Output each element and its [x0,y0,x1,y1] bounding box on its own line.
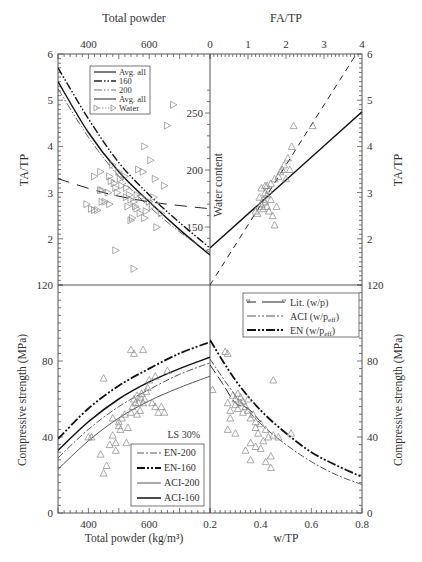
figure: 4006000123423456234561502002500040408080… [0,0,422,562]
legend-aci-200: ACI-200 [164,477,200,488]
data-marker [97,451,104,458]
tick-label: 80 [367,355,379,367]
tick-label: 600 [141,518,158,530]
data-marker [148,157,155,164]
data-marker [100,470,107,477]
bottom-right-xlabel: w/TP [274,532,299,544]
data-marker [140,346,147,353]
tick-label: 2 [283,38,289,50]
data-marker [154,224,161,231]
legend-bottom-left: EN-200 EN-160 ACI-200 ACI-160 [131,444,204,506]
tick-label: 6 [48,48,54,60]
data-marker [131,350,138,357]
series-line [210,340,362,477]
legend-en-160: EN-160 [164,462,196,473]
top-right-series [210,54,362,285]
data-marker [164,122,171,129]
tick-label: 2 [367,233,373,245]
tick-label: 0.2 [203,518,217,530]
data-marker [142,143,149,150]
legend-water: Water [119,103,139,113]
tick-label: 0 [207,38,213,50]
data-marker [284,154,291,161]
data-marker [288,143,295,150]
data-marker [105,189,112,196]
data-marker [136,166,143,173]
tick-label: 4 [48,140,54,152]
top-right-points [252,122,316,228]
data-marker [109,432,116,439]
data-marker [152,175,159,182]
data-marker [103,462,110,469]
data-marker [260,205,267,212]
plot-frames [58,54,362,513]
data-marker [247,439,254,446]
tick-label: 80 [42,355,54,367]
tick-label: 0.6 [304,518,318,530]
tick-label: 0.8 [355,518,369,530]
data-points [84,101,316,476]
tick-label: 200 [187,164,204,176]
data-marker [267,196,274,203]
tick-label: 3 [367,187,373,199]
tick-label: 40 [367,431,379,443]
legend-lit: Lit. (w/p) [290,297,328,309]
top-right-xlabel: FA/TP [270,11,302,25]
left-ylabel-top: TA/TP [17,153,31,186]
data-marker [224,399,231,406]
tick-label: 3 [48,187,54,199]
data-marker [142,215,149,222]
data-marker [270,377,277,384]
series-line [210,365,261,422]
tick-label: 0 [48,507,54,519]
data-marker [227,415,234,422]
data-marker [273,203,280,210]
legend-top-left: Avg. all 160 200 Avg. all Water [90,66,150,114]
data-marker [143,208,150,215]
data-marker [123,439,130,446]
data-marker [119,182,126,189]
data-marker [171,101,178,108]
left-ylabel-bottom: Compressive strength (MPa) [16,334,29,466]
tick-label: 120 [37,279,54,291]
bottom-right-points [209,348,295,470]
data-marker [288,430,295,437]
data-marker [161,182,168,189]
data-marker [98,168,105,175]
data-marker [242,447,249,454]
tick-label: 2 [48,233,54,245]
tick-label: 120 [367,279,384,291]
data-marker [112,439,119,446]
right-ylabel-top: TA/TP [391,153,405,186]
data-marker [137,210,144,217]
data-marker [134,411,141,418]
data-marker [290,122,297,129]
data-marker [222,348,229,355]
water-content-label: Water content [212,152,224,217]
data-marker [125,203,132,210]
series-line [210,54,356,285]
data-marker [100,375,107,382]
data-marker [271,221,278,228]
tick-label: 400 [80,38,97,50]
series-line [210,112,362,248]
tick-label: 1 [245,38,251,50]
legend-bottom-right: Lit. (w/p) ACI (w/peff) EN (w/peff) [243,293,359,338]
data-marker [84,201,91,208]
tick-label: 40 [42,431,54,443]
top-left-xlabel: Total powder [102,11,165,25]
data-marker [232,430,239,437]
data-marker [113,247,120,254]
tick-label: 6 [367,48,373,60]
data-marker [107,173,114,180]
right-ylabel-bottom: Compressive strength (MPa) [392,334,405,466]
data-marker [158,403,165,410]
data-marker [117,426,124,433]
data-marker [269,212,276,219]
data-marker [124,424,131,431]
top-left-points [84,101,177,272]
tick-label: 0.4 [254,518,268,530]
data-marker [224,426,231,433]
data-marker [267,453,274,460]
tick-label: 4 [359,38,365,50]
